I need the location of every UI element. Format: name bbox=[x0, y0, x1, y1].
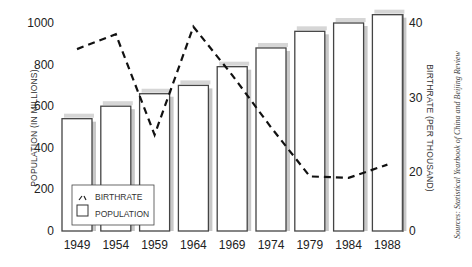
population-legend-icon bbox=[77, 205, 88, 216]
x-tick-label: 1954 bbox=[102, 238, 129, 252]
x-tick-label: 1969 bbox=[219, 238, 246, 252]
right-tick-label: 40 bbox=[409, 16, 423, 30]
bar-top-shade bbox=[142, 89, 172, 93]
x-tick-label: 1984 bbox=[335, 238, 362, 252]
bar-top-shade bbox=[297, 26, 327, 30]
population-bar bbox=[372, 15, 402, 231]
right-tick-label: 30 bbox=[409, 91, 423, 105]
legend-population-label: POPULATION bbox=[95, 209, 149, 219]
x-axis-ticks: 194919541959196419691974197919841988 bbox=[64, 238, 401, 252]
bar-top-shade bbox=[258, 43, 288, 47]
population-bar bbox=[178, 85, 208, 231]
population-bar bbox=[334, 23, 364, 231]
bar-top-shade bbox=[336, 18, 366, 22]
x-tick-label: 1964 bbox=[180, 238, 207, 252]
x-tick-label: 1979 bbox=[296, 238, 323, 252]
bar-top-shade bbox=[374, 10, 404, 14]
right-axis-label: BIRTHRATE (PER THOUSAND) bbox=[425, 64, 435, 192]
population-birthrate-chart: 02004006008001000 POPULATION (IN MILLION… bbox=[0, 0, 472, 267]
right-tick-label: 20 bbox=[409, 165, 423, 179]
x-tick-label: 1988 bbox=[374, 238, 401, 252]
bar-top-shade bbox=[64, 114, 94, 118]
bar-top-shade bbox=[103, 101, 133, 105]
x-tick-label: 1959 bbox=[141, 238, 168, 252]
left-tick-label: 0 bbox=[47, 224, 54, 238]
source-note: Sources: Statistical Yearbook of China a… bbox=[453, 51, 462, 239]
right-axis-ticks: 0203040 bbox=[409, 16, 423, 238]
left-axis-label: POPULATION (IN MILLIONS) bbox=[29, 69, 39, 187]
population-bar bbox=[217, 67, 247, 231]
legend: BIRTHRATE POPULATION bbox=[72, 185, 154, 225]
left-tick-label: 1000 bbox=[27, 16, 54, 30]
x-tick-label: 1949 bbox=[64, 238, 91, 252]
x-tick-label: 1974 bbox=[258, 238, 285, 252]
right-tick-label: 0 bbox=[409, 224, 416, 238]
bar-top-shade bbox=[180, 80, 210, 84]
population-bar bbox=[256, 48, 286, 231]
population-bar bbox=[295, 31, 325, 231]
legend-birthrate-label: BIRTHRATE bbox=[95, 192, 143, 202]
